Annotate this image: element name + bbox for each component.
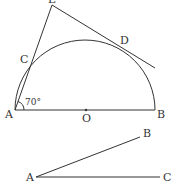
- label-C: C: [20, 53, 28, 66]
- label-O: O: [82, 112, 91, 125]
- angle-arc-70: [18, 102, 24, 111]
- label-D: D: [120, 34, 129, 47]
- label2-A: A: [25, 171, 35, 184]
- label2-C: C: [163, 171, 171, 184]
- label2-B: B: [143, 127, 151, 140]
- tangent-ED: [52, 5, 155, 68]
- figure-semicircle: [15, 5, 155, 110]
- label-B: B: [157, 108, 165, 121]
- figure-angle: [36, 137, 160, 177]
- label-E: E: [48, 0, 56, 6]
- ray-AB: [36, 137, 140, 177]
- center-point-O: [85, 109, 87, 111]
- geometry-figure: E C D A O B 70° A B C: [0, 0, 174, 187]
- angle-label: 70°: [25, 97, 41, 107]
- label-A: A: [4, 108, 14, 121]
